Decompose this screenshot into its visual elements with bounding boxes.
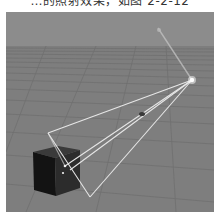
light-direction-end: [157, 28, 161, 32]
3d-viewport[interactable]: [6, 12, 214, 212]
caption-text: …的照射效果，如图 2-2-12: [0, 0, 220, 8]
cube-front-face: [33, 152, 56, 196]
sky-background: [6, 12, 214, 46]
target-marker-2: [62, 172, 64, 174]
cube-side-face: [55, 150, 80, 196]
spot-light[interactable]: [190, 78, 194, 82]
light-handle[interactable]: [139, 112, 145, 116]
target-marker: [64, 165, 67, 168]
